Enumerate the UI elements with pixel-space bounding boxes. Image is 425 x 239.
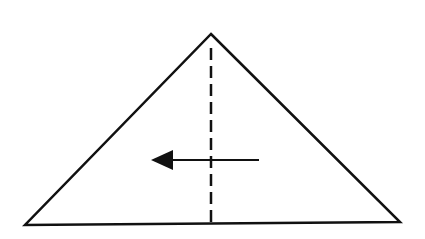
arrow-left-icon <box>151 150 173 170</box>
origami-diagram <box>0 0 425 239</box>
diagram-canvas <box>0 0 425 239</box>
paper-triangle <box>25 34 400 225</box>
